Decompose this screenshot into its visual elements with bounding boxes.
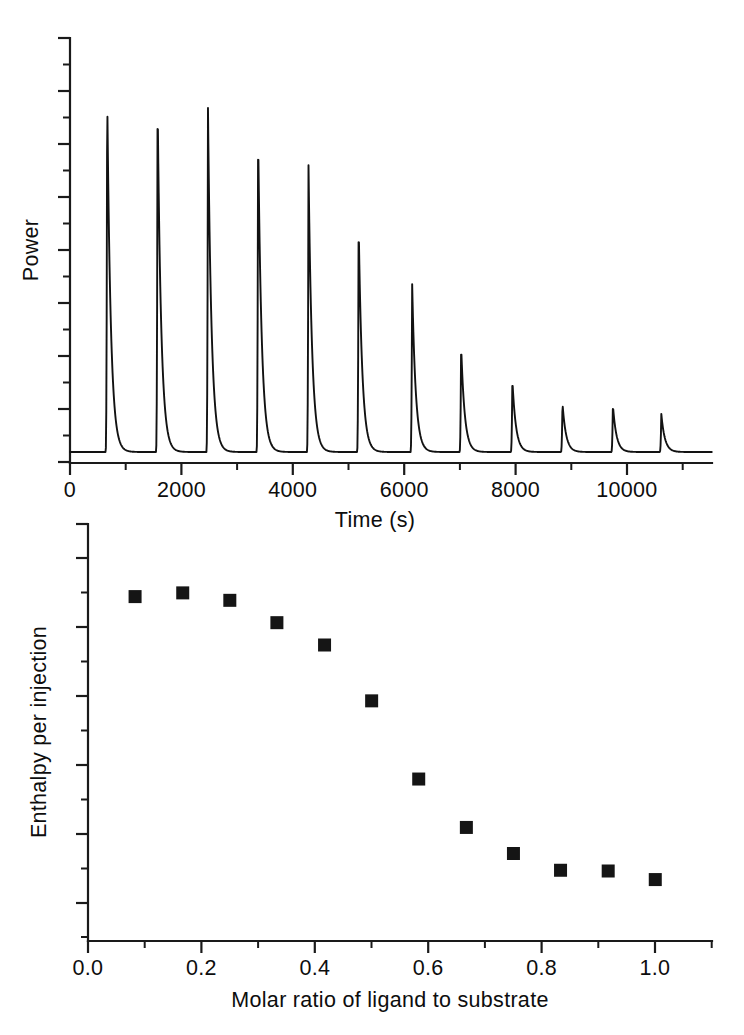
- bottom-x-tick-label-08: 0.8: [526, 956, 557, 980]
- data-point-marker: [554, 864, 567, 877]
- data-point-marker: [176, 586, 189, 599]
- data-point-marker: [507, 847, 520, 860]
- data-point-marker: [223, 594, 236, 607]
- top-x-tick-label-10000: 10000: [596, 478, 657, 502]
- top-x-tick-label-8000: 8000: [491, 478, 540, 502]
- itc-figure: 0 2000 4000 6000 8000 10000 Power Time (…: [0, 0, 744, 1035]
- top-x-tick-label-6000: 6000: [380, 478, 429, 502]
- data-point-marker: [460, 821, 473, 834]
- data-point-marker: [365, 694, 378, 707]
- data-point-marker: [602, 865, 615, 878]
- bottom-x-tick-label-00: 0.0: [73, 956, 104, 980]
- top-x-tick-label-0: 0: [64, 478, 76, 502]
- bottom-x-tick-label-10: 1.0: [640, 956, 671, 980]
- data-point-marker: [649, 873, 662, 886]
- top-panel-y-axis-title: Power: [19, 219, 43, 281]
- top-panel-x-axis-title: Time (s): [335, 508, 415, 532]
- data-point-marker: [412, 773, 425, 786]
- bottom-x-tick-label-04: 0.4: [299, 956, 330, 980]
- data-point-marker: [129, 590, 142, 603]
- top-x-tick-label-2000: 2000: [157, 478, 206, 502]
- bottom-x-tick-label-02: 0.2: [186, 956, 217, 980]
- data-point-marker: [270, 616, 283, 629]
- data-point-marker: [318, 639, 331, 652]
- figure-canvas: 0 2000 4000 6000 8000 10000 Power Time (…: [0, 0, 744, 1035]
- bottom-x-tick-label-06: 0.6: [413, 956, 444, 980]
- top-x-tick-label-4000: 4000: [268, 478, 317, 502]
- bottom-panel-x-axis-title: Molar ratio of ligand to substrate: [231, 988, 548, 1012]
- bottom-panel-y-axis-title: Enthalpy per injection: [27, 626, 51, 838]
